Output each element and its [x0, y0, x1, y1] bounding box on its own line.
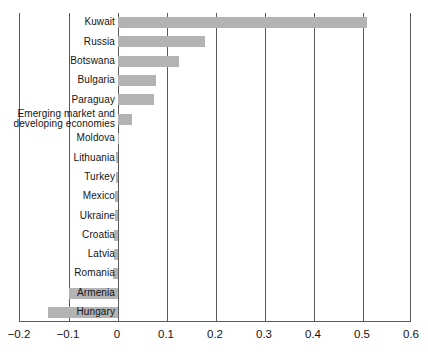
bar-chart: KuwaitRussiaBotswanaBulgariaParaguayEmer… [0, 0, 428, 359]
x-axis-tick-labels: −0.2−0.100.10.20.30.40.50.6 [0, 0, 428, 359]
x-tick-label: 0.6 [381, 328, 428, 340]
